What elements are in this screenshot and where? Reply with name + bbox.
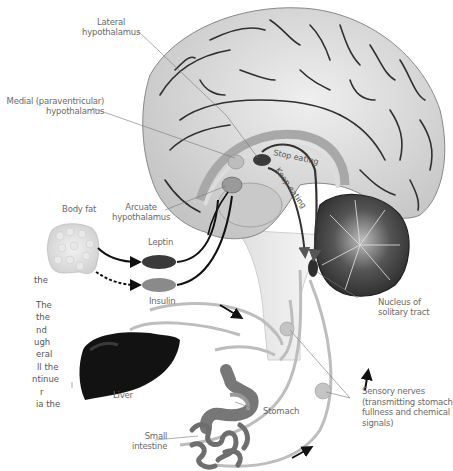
label-sensory-nerves: Sensory nerves (transmitting stomach ful… (362, 386, 453, 428)
arcuate-hypothalamus-nucleus (222, 177, 242, 193)
leptin-capsule (142, 255, 176, 269)
label-arcuate-hypothalamus: Arcuate hypothalamus (112, 202, 170, 222)
label-lateral-hypothalamus: Lateral hypothalamus (82, 17, 140, 37)
body-fat-illustration (48, 224, 99, 274)
stomach-illustration (206, 370, 253, 428)
cerebrum (143, 8, 445, 239)
label-body-fat: Body fat (62, 204, 96, 214)
label-insulin: Insulin (149, 296, 175, 306)
insulin-capsule (142, 278, 176, 292)
label-liver: Liver (113, 390, 133, 400)
label-stomach: Stomach (263, 406, 299, 416)
label-small-intestine: Small intestine (132, 431, 167, 451)
label-medial-hypothalamus: Medial (paraventricular) hypothalamus (6, 96, 104, 116)
clipped-caption-text: the The the nd ugh eral ll the ntinue r … (0, 274, 70, 410)
label-leptin: Leptin (148, 237, 173, 247)
nucleus-solitary-tract-node (308, 259, 318, 277)
label-nucleus-solitary-tract: Nucleus of solitary tract (378, 297, 429, 317)
cerebellum (315, 195, 409, 297)
lateral-hypothalamus-nucleus (253, 154, 271, 166)
medial-hypothalamus-nucleus (228, 155, 244, 169)
